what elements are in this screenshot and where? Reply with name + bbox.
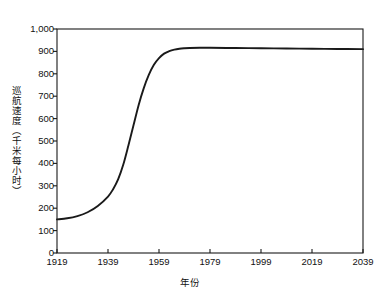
- x-axis-tick-label: 1959: [148, 256, 169, 267]
- x-axis-tick-label: 1939: [97, 256, 118, 267]
- x-axis-title: 年份: [0, 277, 380, 288]
- x-axis-tick-label: 1999: [250, 256, 271, 267]
- x-axis-tick-label: 2039: [352, 256, 373, 267]
- chart-figure: 巡航速度（千米每小时） 0100200300400500600700800900…: [0, 0, 380, 302]
- x-axis-tick-labels: 1919193919591979199920192039: [0, 256, 380, 272]
- x-axis-tick-label: 1979: [199, 256, 220, 267]
- plot-background: [57, 29, 363, 253]
- x-axis-tick-label: 2019: [301, 256, 322, 267]
- x-axis-tick-label: 1919: [46, 256, 67, 267]
